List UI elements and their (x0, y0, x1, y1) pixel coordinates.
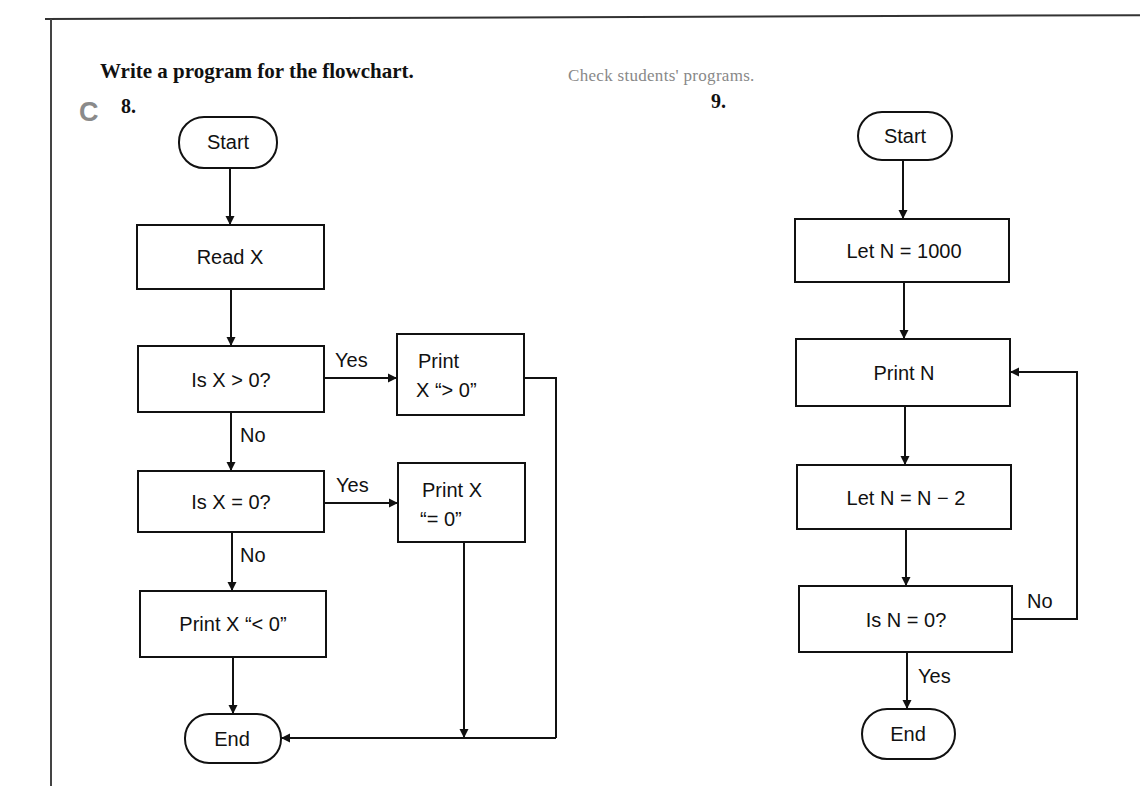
print-positive-line1: Print (418, 350, 460, 372)
end-terminal-8: End (185, 714, 281, 763)
print-n-box: Print N (796, 339, 1010, 406)
decision-x-eq-0-label: Is X = 0? (191, 491, 271, 513)
start-terminal-9: Start (858, 112, 952, 160)
d1-no-label: No (240, 424, 266, 446)
decision-n-eq-0-label: Is N = 0? (866, 609, 947, 631)
print-negative-box: Print X “< 0” (140, 591, 326, 657)
arrow-no-loop-back (1010, 372, 1077, 619)
start-label-9: Start (884, 125, 927, 147)
end-label-9: End (890, 723, 926, 745)
decrement-n-box: Let N = N − 2 (797, 465, 1011, 529)
flowchart-9: Start Let N = 1000 Print N Let N = N − 2… (795, 112, 1077, 759)
connector-positive-to-end (524, 378, 556, 738)
d1-yes-label: Yes (335, 349, 368, 371)
init-n-label: Let N = 1000 (846, 240, 961, 262)
read-x-label: Read X (197, 246, 264, 268)
start-label-8: Start (207, 131, 250, 153)
print-zero-line2: “= 0” (420, 508, 462, 530)
decision-x-eq-0: Is X = 0? (138, 471, 324, 532)
read-x-box: Read X (137, 225, 324, 289)
flowchart-8: Start Read X Is X > 0? Yes Print X “> 0”… (137, 117, 556, 763)
print-zero-box: Print X “= 0” (398, 463, 525, 542)
start-terminal-8: Start (179, 117, 277, 168)
flowcharts: Start Read X Is X > 0? Yes Print X “> 0”… (0, 0, 1140, 812)
decision-x-gt-0-label: Is X > 0? (191, 369, 271, 391)
init-n-box: Let N = 1000 (795, 219, 1009, 282)
print-negative-label: Print X “< 0” (179, 613, 286, 635)
decision-n-eq-0: Is N = 0? (799, 586, 1012, 652)
d2-no-label: No (240, 544, 266, 566)
decrement-n-label: Let N = N − 2 (847, 487, 966, 509)
end-terminal-9: End (862, 709, 955, 759)
yes-label-9: Yes (918, 665, 951, 687)
end-label-8: End (214, 728, 250, 750)
print-positive-line2: X “> 0” (416, 379, 477, 401)
print-positive-box: Print X “> 0” (397, 334, 524, 415)
print-zero-line1: Print X (422, 479, 482, 501)
no-label-9: No (1027, 590, 1053, 612)
decision-x-gt-0: Is X > 0? (138, 346, 324, 412)
print-n-label: Print N (873, 362, 934, 384)
d2-yes-label: Yes (336, 474, 369, 496)
